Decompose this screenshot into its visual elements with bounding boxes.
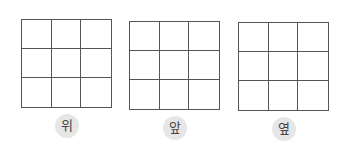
grid-cell <box>130 51 160 80</box>
grid-cell <box>160 80 190 109</box>
grid-cell <box>130 22 160 51</box>
grid-cell <box>81 20 111 49</box>
label-side-view: 옆 <box>272 117 296 141</box>
grid-cell <box>298 52 328 81</box>
grid-cell <box>22 20 52 49</box>
grid-cell <box>160 22 190 51</box>
grid-cell <box>189 22 219 51</box>
grid-cell <box>52 20 82 49</box>
grid-cell <box>269 52 299 81</box>
label-front-view: 앞 <box>163 116 187 140</box>
grid-cell <box>298 81 328 110</box>
grid-cell <box>22 78 52 107</box>
grid-side-view <box>238 22 329 111</box>
grid-cell <box>189 80 219 109</box>
grid-cell <box>239 23 269 52</box>
grid-cell <box>130 80 160 109</box>
grid-cell <box>22 49 52 78</box>
grid-cell <box>269 23 299 52</box>
grid-cell <box>81 78 111 107</box>
grid-top-view <box>21 19 112 108</box>
grid-cell <box>189 51 219 80</box>
grid-cell <box>239 52 269 81</box>
grid-cell <box>298 23 328 52</box>
grid-front-view <box>129 21 220 110</box>
grid-cell <box>239 81 269 110</box>
label-top-view: 위 <box>55 114 79 138</box>
grid-cell <box>81 49 111 78</box>
grid-cell <box>160 51 190 80</box>
grid-cell <box>52 49 82 78</box>
grid-cell <box>269 81 299 110</box>
grid-cell <box>52 78 82 107</box>
